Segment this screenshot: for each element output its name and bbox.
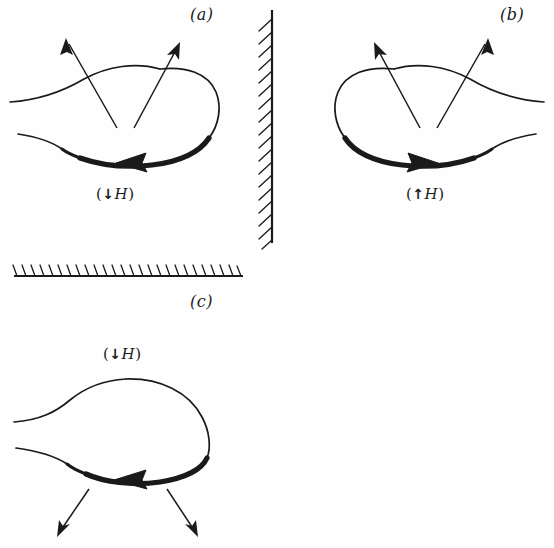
field-label-b-symbol: H [425,185,439,203]
panel-c-flux-arrow-right-head [185,520,198,537]
horizontal-wall-hatching [13,265,241,276]
panel-a-flux-arrow-right-shaft [134,48,177,128]
field-label-a: (↓H) [96,185,135,203]
panel-c-ring-bold-taper [67,464,86,474]
panel-b-circulation-arrowhead [407,153,438,172]
panel-a-flux-arrow-right-head [167,42,180,60]
panel-a-flux-arrow-left-shaft [69,44,117,128]
panel-c-ring-thin-arc [126,379,209,458]
panel-b-flux-arrow-left-shaft [437,44,485,128]
field-label-b: (↑H) [406,185,445,203]
panel-a-circulation-arrowhead [116,153,147,172]
field-label-b-close-paren: ) [438,185,444,203]
panel-c-ring-bold-arc [86,458,207,484]
horizontal-wall-group [13,265,243,276]
panel-b-flux-arrow-right-shaft [377,48,420,128]
panel-label-c: (c) [190,292,213,311]
vortex-ring-figure: (a) (b) (c) (↓H) (↑H) (↓H) [0,0,554,548]
panel-a-ring-bold-taper [62,149,80,158]
panel-label-a: (a) [190,5,214,24]
vertical-wall-hatching [259,19,272,249]
panel-label-b: (b) [500,5,524,24]
panel-c-circulation-arrowhead [114,470,147,489]
field-label-c-close-paren: ) [135,345,141,363]
panel-a-ring-thin-arc [160,68,219,138]
panel-b-ring-bold-taper [474,149,492,158]
field-label-c: (↓H) [103,345,142,363]
panel-c-flux-arrow-left-shaft [61,489,89,530]
panel-b-flux-arrow-right-head [374,42,387,60]
panel-b-ring-thin-arc [335,68,394,138]
panel-b-ring-lower-tail [492,134,536,149]
field-label-c-arrow-down-icon: ↓ [109,346,121,362]
panel-b-ring-bold-arc [345,138,474,166]
panel-c-flux-arrow-right-shaft [167,489,194,530]
panel-a-group [10,38,219,172]
panel-a-ring-bold-arc [80,138,209,166]
field-label-a-symbol: H [115,185,129,203]
field-label-a-close-paren: ) [128,185,134,203]
panel-c-group [14,379,209,537]
field-label-a-arrow-down-icon: ↓ [102,186,114,202]
vertical-wall-group [259,10,272,249]
figure-canvas [0,0,554,548]
panel-c-ring-upper-tail [14,379,126,422]
field-label-b-arrow-up-icon: ↑ [412,186,424,202]
panel-b-group [335,38,544,172]
panel-a-ring-lower-tail [18,134,62,149]
panel-c-flux-arrow-left-head [57,520,70,537]
panel-c-ring-lower-tail [16,448,67,464]
field-label-c-symbol: H [122,345,136,363]
